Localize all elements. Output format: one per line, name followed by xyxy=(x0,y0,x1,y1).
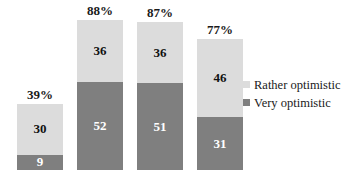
bar-total-label: 88% xyxy=(77,4,123,18)
bar-group[interactable]: 88%3652 xyxy=(77,4,123,170)
bar-stack: 309 xyxy=(17,104,63,170)
bar-segment-light[interactable]: 36 xyxy=(137,22,183,83)
bar-segment-light[interactable]: 36 xyxy=(77,20,123,81)
bar-segment-dark[interactable]: 51 xyxy=(137,83,183,170)
bar-segment-dark[interactable]: 9 xyxy=(17,155,63,170)
bar-segment-light[interactable]: 30 xyxy=(17,104,63,155)
bar-total-label: 77% xyxy=(197,23,243,37)
bar-segment-value: 52 xyxy=(94,118,107,134)
plot-area: 39%30988%365287%365177%4631 xyxy=(0,0,250,177)
bar-stack: 4631 xyxy=(197,39,243,170)
bar-segment-dark[interactable]: 52 xyxy=(77,82,123,170)
legend-swatch-icon-rather-optimistic xyxy=(243,81,250,88)
legend-item-very-optimistic[interactable]: Very optimistic xyxy=(243,94,350,111)
legend-label-very-optimistic: Very optimistic xyxy=(254,96,331,110)
bar-segment-value: 30 xyxy=(34,121,47,137)
chart-legend: Rather optimistic Very optimistic xyxy=(243,76,350,112)
bar-total-label: 87% xyxy=(137,6,183,20)
bar-group[interactable]: 87%3651 xyxy=(137,6,183,170)
bar-segment-value: 31 xyxy=(214,136,227,152)
stacked-bar-chart: 39%30988%365287%365177%4631 Rather optim… xyxy=(0,0,350,177)
bar-segment-dark[interactable]: 31 xyxy=(197,117,243,170)
bar-segment-value: 51 xyxy=(154,119,167,135)
bar-segment-value: 36 xyxy=(154,45,167,61)
bar-segment-value: 9 xyxy=(37,154,44,170)
bar-total-label: 39% xyxy=(17,88,63,102)
bar-group[interactable]: 77%4631 xyxy=(197,23,243,170)
bar-segment-light[interactable]: 46 xyxy=(197,39,243,117)
legend-swatch-icon-very-optimistic xyxy=(243,99,250,106)
bar-segment-value: 46 xyxy=(214,70,227,86)
bar-segment-value: 36 xyxy=(94,43,107,59)
bar-stack: 3652 xyxy=(77,20,123,170)
bar-group[interactable]: 39%309 xyxy=(17,88,63,170)
legend-label-rather-optimistic: Rather optimistic xyxy=(254,78,340,92)
legend-item-rather-optimistic[interactable]: Rather optimistic xyxy=(243,76,350,93)
bar-stack: 3651 xyxy=(137,22,183,170)
